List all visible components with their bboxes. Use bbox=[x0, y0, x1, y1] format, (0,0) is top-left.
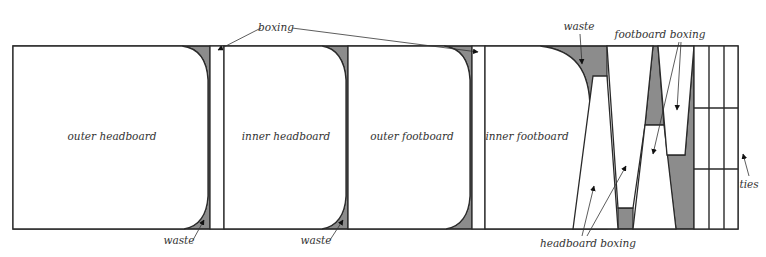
ties-grid bbox=[694, 46, 738, 229]
boxing-strip-2 bbox=[472, 46, 485, 229]
ties-arrow bbox=[743, 154, 749, 176]
callout-waste-top: waste bbox=[563, 20, 594, 32]
callout-waste-bottom-1: waste bbox=[163, 234, 194, 246]
callout-waste-bottom-2: waste bbox=[300, 234, 331, 246]
label-outer-footboard: outer footboard bbox=[370, 130, 454, 142]
callout-boxing: boxing bbox=[258, 21, 294, 33]
callout-ties: ties bbox=[739, 178, 759, 190]
callout-footboard-boxing: footboard boxing bbox=[614, 28, 706, 40]
cutting-layout-diagram: outer headboard inner headboard outer fo… bbox=[0, 0, 766, 257]
label-inner-footboard: inner footboard bbox=[485, 130, 569, 142]
callout-headboard-boxing: headboard boxing bbox=[540, 237, 636, 249]
ties-block bbox=[694, 46, 738, 229]
label-outer-headboard: outer headboard bbox=[68, 130, 157, 142]
label-inner-headboard: inner headboard bbox=[242, 130, 331, 142]
waste-region-5 bbox=[618, 208, 633, 229]
boxing-strip-1 bbox=[210, 46, 224, 229]
